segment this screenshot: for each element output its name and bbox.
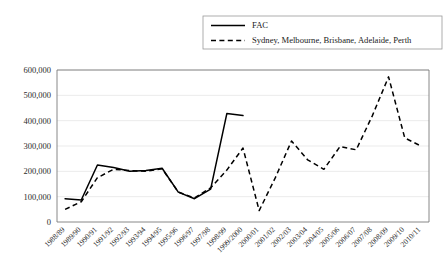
y-axis-tick-label: 400,000 xyxy=(23,116,51,126)
legend-label-fac: FAC xyxy=(252,20,268,30)
data-series-group xyxy=(65,77,421,211)
line-chart: 0100,000200,000300,000400,000500,000600,… xyxy=(0,0,445,278)
legend-label-cities: Sydney, Melbourne, Brisbane, Adelaide, P… xyxy=(252,35,412,45)
y-axis-tick-label: 0 xyxy=(47,217,51,227)
gridlines-group xyxy=(57,70,429,197)
y-axis-tick-label: 600,000 xyxy=(23,65,51,75)
series-line-cities xyxy=(65,77,421,211)
x-axis-tick-labels: 1988/891989/901990/911991/921992/931993/… xyxy=(43,225,423,254)
y-axis-tick-labels: 0100,000200,000300,000400,000500,000600,… xyxy=(23,65,51,227)
y-axis-tick-label: 100,000 xyxy=(23,192,51,202)
y-axis-tick-label: 300,000 xyxy=(23,141,51,151)
y-axis-tick-label: 500,000 xyxy=(23,90,51,100)
y-axis-tick-label: 200,000 xyxy=(23,166,51,176)
chart-container: 0100,000200,000300,000400,000500,000600,… xyxy=(0,0,445,278)
chart-legend: FACSydney, Melbourne, Brisbane, Adelaide… xyxy=(203,16,442,49)
